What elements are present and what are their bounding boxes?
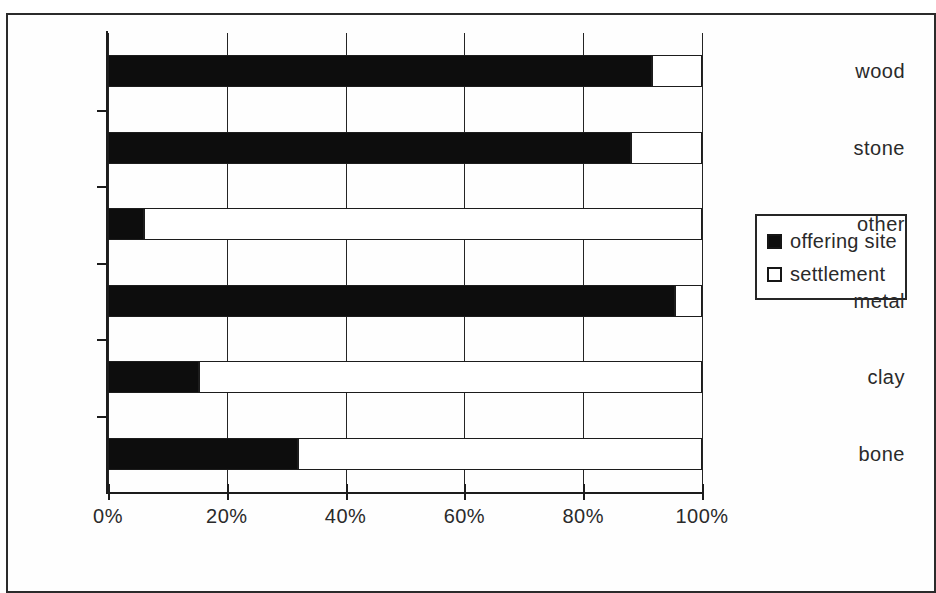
x-axis-tick-inner xyxy=(108,484,110,492)
x-axis-tick xyxy=(583,492,585,500)
x-axis-tick xyxy=(108,492,110,500)
x-axis-tick-inner xyxy=(583,484,585,492)
bar-row xyxy=(108,132,702,164)
bar-row xyxy=(108,208,702,240)
x-axis-tick xyxy=(702,492,704,500)
bar-row xyxy=(108,55,702,87)
bar-row xyxy=(108,438,702,470)
bar-segment-offering-site xyxy=(108,55,652,87)
legend-swatch-offering-site-icon xyxy=(767,234,782,249)
gridline xyxy=(702,33,703,492)
y-axis-category-label: bone xyxy=(821,442,917,465)
bar-segment-settlement xyxy=(675,285,702,317)
legend-label-settlement: settlement xyxy=(790,263,885,286)
y-axis-category-label: stone xyxy=(821,136,917,159)
x-axis-tick-label: 20% xyxy=(187,505,267,528)
bar-segment-settlement xyxy=(199,361,702,393)
bar-segment-offering-site xyxy=(108,132,631,164)
y-axis-tick xyxy=(97,186,108,188)
x-axis-tick-label: 80% xyxy=(543,505,623,528)
x-axis-tick xyxy=(346,492,348,500)
bar-segment-offering-site xyxy=(108,208,144,240)
x-axis-tick-inner xyxy=(464,484,466,492)
bar-segment-settlement xyxy=(298,438,702,470)
bar-segment-settlement xyxy=(144,208,702,240)
y-axis-category-label: other xyxy=(821,213,917,236)
bar-segment-offering-site xyxy=(108,361,199,393)
y-axis-category-label: clay xyxy=(821,366,917,389)
y-axis-tick xyxy=(97,110,108,112)
gridline xyxy=(227,33,228,492)
y-axis-category-label: wood xyxy=(821,60,917,83)
x-axis-tick-label: 60% xyxy=(424,505,504,528)
x-axis-tick-inner xyxy=(702,484,704,492)
bar-row xyxy=(108,285,702,317)
gridline xyxy=(583,33,584,492)
x-axis-tick-inner xyxy=(346,484,348,492)
gridline xyxy=(346,33,347,492)
x-axis-tick-label: 100% xyxy=(662,505,742,528)
x-axis-tick xyxy=(464,492,466,500)
bar-segment-settlement xyxy=(652,55,702,87)
bar-segment-settlement xyxy=(631,132,702,164)
x-axis-tick xyxy=(227,492,229,500)
y-axis-tick xyxy=(97,339,108,341)
x-axis-tick-label: 0% xyxy=(68,505,148,528)
y-axis-tick xyxy=(97,416,108,418)
legend-item-settlement: settlement xyxy=(767,258,905,291)
legend-swatch-settlement-icon xyxy=(767,267,782,282)
y-axis-tick xyxy=(97,263,108,265)
gridline xyxy=(464,33,465,492)
plot-area xyxy=(108,33,702,492)
value-axis-line xyxy=(108,492,704,494)
bar-segment-offering-site xyxy=(108,285,675,317)
x-axis-tick-label: 40% xyxy=(306,505,386,528)
bar-row xyxy=(108,361,702,393)
x-axis-tick-inner xyxy=(227,484,229,492)
gridline xyxy=(108,33,109,492)
y-axis-category-label: metal xyxy=(821,289,917,312)
bar-segment-offering-site xyxy=(108,438,298,470)
